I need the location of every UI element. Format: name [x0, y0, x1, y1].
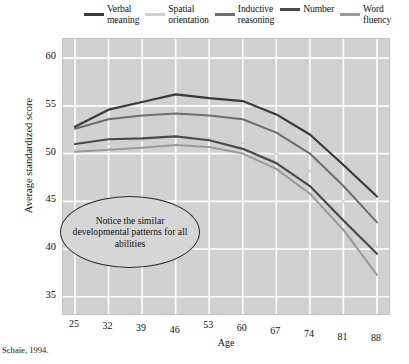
figure: Verbal meaningSpatial orientationInducti… — [0, 0, 409, 364]
source-caption: Schaie, 1994. — [2, 345, 49, 355]
legend-item-verbal-meaning: Verbal meaning — [84, 4, 139, 25]
y-tick-label: 55 — [26, 98, 56, 109]
legend-swatch-icon — [84, 13, 104, 16]
legend-item-spatial-orientation: Spatial orientation — [145, 4, 208, 25]
y-tick-label: 60 — [26, 50, 56, 61]
chart-legend: Verbal meaningSpatial orientationInducti… — [84, 4, 406, 34]
series-lines — [63, 39, 389, 314]
x-tick-label: 60 — [229, 322, 255, 333]
y-tick-label: 40 — [26, 241, 56, 252]
y-tick-label: 50 — [26, 146, 56, 157]
y-tick-label: 35 — [26, 289, 56, 300]
legend-item-word-fluency: Word fluency — [340, 4, 391, 25]
plot-area — [62, 38, 390, 315]
legend-label: Inductive reasoning — [238, 4, 274, 25]
x-tick-label: 67 — [262, 325, 288, 336]
y-tick-label: 45 — [26, 193, 56, 204]
x-axis-title: Age — [62, 337, 390, 348]
legend-swatch-icon — [280, 8, 300, 11]
x-tick-label: 53 — [195, 319, 221, 330]
legend-swatch-icon — [340, 13, 360, 16]
legend-item-number: Number — [280, 4, 334, 15]
annotation-callout: Notice the similar developmental pattern… — [60, 196, 200, 268]
x-tick-label: 25 — [61, 318, 87, 329]
legend-swatch-icon — [145, 13, 165, 16]
x-tick-label: 46 — [162, 324, 188, 335]
legend-label: Spatial orientation — [168, 4, 208, 25]
legend-label: Word fluency — [363, 4, 391, 25]
legend-label: Number — [303, 4, 334, 15]
legend-swatch-icon — [215, 13, 235, 16]
x-tick-label: 39 — [128, 322, 154, 333]
legend-item-inductive-reasoning: Inductive reasoning — [215, 4, 274, 25]
legend-label: Verbal meaning — [107, 4, 139, 25]
x-tick-label: 32 — [95, 320, 121, 331]
